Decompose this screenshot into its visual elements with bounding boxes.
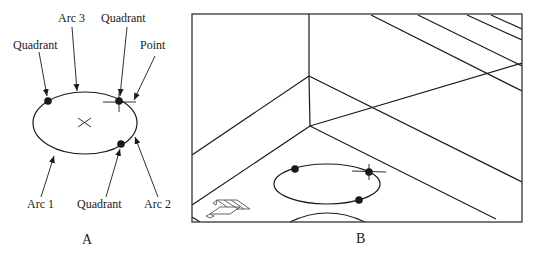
leader-point bbox=[134, 56, 155, 100]
leader-arc3 bbox=[72, 27, 77, 91]
label-arc1: Arc 1 bbox=[27, 197, 54, 211]
diagram: Arc 3 Quadrant Quadrant Point Arc 1 Quad… bbox=[0, 0, 535, 257]
partial-arc bbox=[290, 213, 365, 222]
quadrant-dot-left bbox=[44, 97, 52, 105]
quadrant-dot-b3 bbox=[355, 196, 363, 204]
caption-b: B bbox=[356, 231, 365, 246]
quadrant-dot-bottom bbox=[117, 140, 125, 148]
leader-quadrant-left bbox=[39, 52, 47, 96]
leader-arc2 bbox=[135, 137, 158, 197]
caption-a: A bbox=[82, 232, 93, 247]
leader-quadrant-top bbox=[120, 27, 127, 96]
panel-a: Arc 3 Quadrant Quadrant Point Arc 1 Quad… bbox=[13, 11, 171, 247]
label-quadrant-left: Quadrant bbox=[13, 38, 58, 52]
label-point: Point bbox=[140, 38, 166, 52]
ucs-icon bbox=[206, 200, 250, 218]
center-mark-icon bbox=[78, 118, 91, 127]
label-arc3: Arc 3 bbox=[58, 11, 85, 25]
viewport-frame bbox=[192, 14, 522, 222]
label-quadrant-bottom: Quadrant bbox=[77, 197, 122, 211]
label-arc2: Arc 2 bbox=[144, 197, 171, 211]
point-crosshair-b-icon bbox=[352, 164, 386, 180]
leader-arc1 bbox=[41, 156, 54, 197]
leader-quadrant-bottom bbox=[106, 149, 120, 197]
label-quadrant-top: Quadrant bbox=[101, 11, 146, 25]
quadrant-dot-b1 bbox=[291, 165, 299, 173]
ellipse-b bbox=[274, 164, 380, 204]
panel-b: B bbox=[192, 14, 522, 246]
